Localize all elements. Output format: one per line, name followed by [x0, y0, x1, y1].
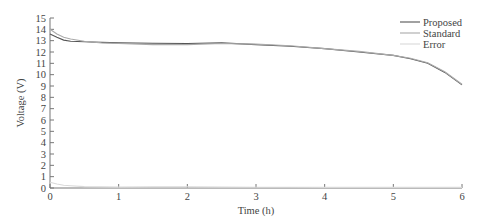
y-tick-label: 2 — [41, 160, 46, 171]
x-tick-label: 0 — [47, 191, 52, 202]
y-tick-label: 0 — [41, 183, 46, 194]
y-tick-label: 7 — [41, 103, 46, 114]
x-tick-label: 1 — [116, 191, 121, 202]
y-tick-label: 10 — [36, 69, 47, 80]
x-tick-label: 6 — [459, 191, 464, 202]
legend: ProposedStandardError — [400, 17, 463, 50]
y-tick-label: 9 — [41, 81, 46, 92]
y-tick-label: 1 — [41, 171, 46, 182]
x-tick-label: 4 — [322, 191, 328, 202]
x-tick-label: 2 — [185, 191, 190, 202]
y-axis-label: Voltage (V) — [15, 78, 27, 128]
y-tick-label: 13 — [36, 35, 47, 46]
legend-label-standard: Standard — [423, 28, 461, 39]
series-line-proposed — [50, 34, 462, 85]
y-tick-label: 8 — [41, 92, 46, 103]
legend-label-error: Error — [423, 39, 446, 50]
series-lines — [50, 29, 462, 187]
y-tick-label: 5 — [41, 126, 46, 137]
x-tick-label: 3 — [253, 191, 258, 202]
series-line-standard — [50, 29, 462, 84]
legend-label-proposed: Proposed — [423, 17, 463, 28]
axes: 01234567891011121314150123456 — [36, 13, 465, 203]
y-tick-label: 15 — [36, 13, 47, 24]
y-tick-label: 6 — [41, 115, 46, 126]
y-tick-label: 14 — [36, 24, 47, 35]
voltage-time-chart: 01234567891011121314150123456 ProposedSt… — [0, 0, 485, 222]
y-tick-label: 12 — [36, 47, 47, 58]
y-tick-label: 3 — [41, 149, 46, 160]
x-tick-label: 5 — [391, 191, 396, 202]
y-tick-label: 4 — [41, 137, 47, 148]
x-axis-label: Time (h) — [238, 205, 275, 217]
y-tick-label: 11 — [36, 58, 46, 69]
